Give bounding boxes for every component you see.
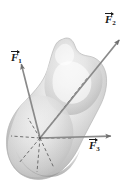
force-application-point bbox=[39, 137, 41, 139]
vector-label-F3-text: F3 bbox=[89, 140, 100, 153]
vector-label-F2: F2 bbox=[105, 11, 116, 27]
vector-label-F1-text: F1 bbox=[11, 52, 22, 65]
vector-arrow-accent-F3 bbox=[89, 137, 98, 141]
vector-label-F3: F3 bbox=[89, 137, 100, 153]
vector-arrow-accent-F1 bbox=[11, 49, 20, 53]
figure-container: F1 F2 F3 bbox=[0, 0, 135, 189]
vector-label-F2-text: F2 bbox=[105, 14, 116, 27]
vector-arrow-accent-F2 bbox=[105, 11, 114, 15]
force-diagram-svg bbox=[0, 0, 135, 189]
vector-label-F1: F1 bbox=[11, 49, 22, 65]
